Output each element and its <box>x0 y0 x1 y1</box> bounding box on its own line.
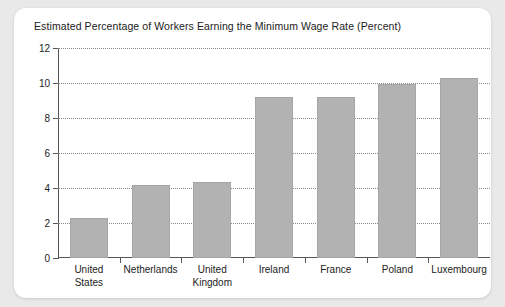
x-axis-label: Luxembourg <box>428 264 490 277</box>
x-axis-label-line: Poland <box>367 264 429 277</box>
bar <box>193 182 231 258</box>
y-axis-tick <box>53 83 58 84</box>
bar-slot <box>367 48 429 258</box>
y-axis-tick-label: 4 <box>44 183 50 194</box>
y-axis-tick <box>53 188 58 189</box>
x-axis-label: Netherlands <box>120 264 182 277</box>
chart-title: Estimated Percentage of Workers Earning … <box>34 20 401 32</box>
x-axis-tick <box>120 258 121 263</box>
y-axis-tick-label: 6 <box>44 148 50 159</box>
y-axis-tick-label: 12 <box>39 43 50 54</box>
bar-slot <box>181 48 243 258</box>
x-axis-label-line: States <box>58 277 120 290</box>
x-axis-label-line: France <box>305 264 367 277</box>
y-axis-tick-label: 2 <box>44 218 50 229</box>
y-axis-tick <box>53 258 58 259</box>
x-axis-label-line: United <box>181 264 243 277</box>
x-axis-label: France <box>305 264 367 277</box>
chart-card: Estimated Percentage of Workers Earning … <box>14 8 491 298</box>
x-axis-label-line: Netherlands <box>120 264 182 277</box>
bar <box>70 218 108 258</box>
bar-slot <box>58 48 120 258</box>
x-axis-label: UnitedStates <box>58 264 120 289</box>
x-axis-label-line: Kingdom <box>181 277 243 290</box>
x-axis-label-line: Luxembourg <box>428 264 490 277</box>
plot-area: 024681012 <box>58 48 490 258</box>
bar <box>440 78 478 258</box>
x-axis-tick <box>428 258 429 263</box>
y-axis-tick <box>53 118 58 119</box>
x-axis-tick <box>367 258 368 263</box>
bar <box>132 185 170 259</box>
x-axis-label-line: Ireland <box>243 264 305 277</box>
bar-slot <box>243 48 305 258</box>
x-axis-label: UnitedKingdom <box>181 264 243 289</box>
x-axis-label-line: United <box>58 264 120 277</box>
x-axis-label: Poland <box>367 264 429 277</box>
bar-slot <box>305 48 367 258</box>
y-axis-tick-label: 0 <box>44 253 50 264</box>
x-axis-tick <box>243 258 244 263</box>
screenshot-root: Estimated Percentage of Workers Earning … <box>0 0 505 307</box>
y-axis-tick <box>53 223 58 224</box>
bar <box>317 97 355 258</box>
y-axis-tick-label: 10 <box>39 78 50 89</box>
y-axis-tick <box>53 48 58 49</box>
bar-slot <box>428 48 490 258</box>
x-axis-tick <box>305 258 306 263</box>
bar <box>255 97 293 258</box>
x-axis-tick <box>181 258 182 263</box>
bar-slot <box>120 48 182 258</box>
y-axis-tick <box>53 153 58 154</box>
bar <box>378 84 416 258</box>
y-axis-tick-label: 8 <box>44 113 50 124</box>
x-axis-labels: UnitedStatesNetherlandsUnitedKingdomIrel… <box>58 264 490 304</box>
bar-series <box>58 48 490 258</box>
x-axis-label: Ireland <box>243 264 305 277</box>
